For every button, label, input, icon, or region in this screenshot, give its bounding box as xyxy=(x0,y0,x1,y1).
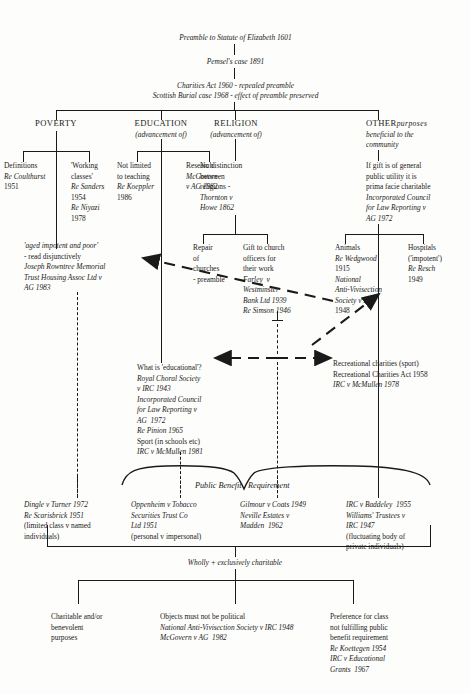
connector-wholly-mid xyxy=(235,580,236,604)
dashed-tail-poverty xyxy=(77,476,78,498)
dashed-arrow-to-poverty xyxy=(143,258,333,301)
connector-wholly-bus xyxy=(78,580,353,581)
wholly-branch-2: Objects must not be politicalNational An… xyxy=(160,612,293,644)
pb-case-col-2: Oppenheim v TobaccoSecurities Trust CoLt… xyxy=(131,500,201,542)
connector-collect-down xyxy=(235,546,236,557)
wholly-label: Wholly + exclusively charitable xyxy=(135,558,335,569)
connector-collect-right xyxy=(430,525,431,547)
charity-law-flowchart: Preamble to Statute of Elizabeth 1601 Pe… xyxy=(0,0,471,694)
dashed-arrow-to-hospitals xyxy=(312,294,379,345)
wholly-branch-1: Charitable and/orbenevolentpurposes xyxy=(51,612,103,644)
dashed-tail-religion xyxy=(277,476,278,498)
pb-case-col-4: IRC v Baddeley 1955Williams' Trustees vI… xyxy=(346,500,411,553)
connector-wholly-right xyxy=(353,580,354,604)
connector-collect-bottom xyxy=(47,546,431,547)
dashed-tail-other xyxy=(378,476,379,498)
public-benefit-label-b: Requirement xyxy=(248,481,290,492)
dashed-tail-education xyxy=(180,476,181,498)
public-benefit-label-a: Public Benefit xyxy=(195,481,242,492)
pb-case-col-1: Dingle v Turner 1972Re Scarisbrick 1951(… xyxy=(24,500,91,542)
pb-case-col-3: Gilmour v Coats 1949Neville Estates vMad… xyxy=(240,500,306,532)
connector-collect-left xyxy=(47,525,48,547)
wholly-branch-3: Preference for classnot fulfilling publi… xyxy=(330,612,388,675)
connector-wholly-left xyxy=(78,580,79,604)
